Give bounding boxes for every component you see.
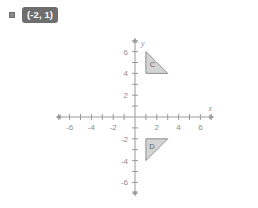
answer-badge[interactable]: (-2, 1) <box>22 7 58 24</box>
shapes-group: CD <box>146 52 168 161</box>
y-tick-label: 4 <box>124 69 129 78</box>
x-tick-label: -6 <box>66 123 74 132</box>
y-tick-label: -4 <box>121 157 129 166</box>
axis-names-group: xy <box>140 39 213 113</box>
x-tick-label: 4 <box>176 123 181 132</box>
y-tick-label: 6 <box>124 48 129 57</box>
axis-lines-group <box>56 38 215 197</box>
coordinate-plane-graph: -6-4-2246642-2-4-6 xy CD <box>0 28 258 208</box>
square-bullet-icon <box>9 12 15 18</box>
graph-svg: -6-4-2246642-2-4-6 xy CD <box>0 28 258 208</box>
y-tick-label: -2 <box>121 135 129 144</box>
y-tick-label: 2 <box>124 91 129 100</box>
x-tick-label: -2 <box>110 123 118 132</box>
x-tick-label: 2 <box>155 123 160 132</box>
shape-label-d: D <box>149 142 155 151</box>
y-axis-name: y <box>140 39 145 48</box>
x-tick-label: 6 <box>198 123 203 132</box>
x-tick-label: -4 <box>88 123 96 132</box>
x-axis-name: x <box>208 104 213 113</box>
y-tick-label: -6 <box>121 178 129 187</box>
answer-row: (-2, 1) <box>0 0 258 30</box>
shape-label-c: C <box>150 60 156 69</box>
